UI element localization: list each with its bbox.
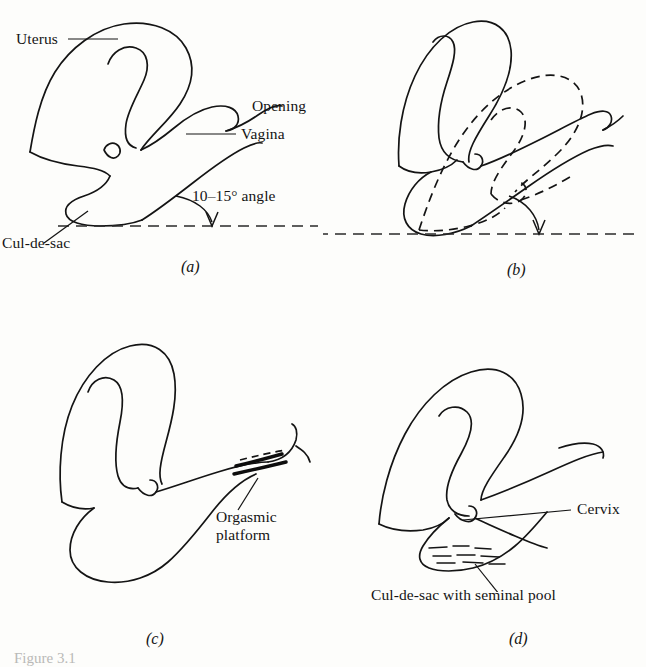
uterine-cavity-ballooned bbox=[88, 378, 138, 489]
uterus-outline-resolution bbox=[379, 369, 523, 524]
uterine-cavity-unstimulated bbox=[491, 108, 525, 194]
uterus-lower-left bbox=[30, 152, 110, 176]
vagina-unstimulated bbox=[521, 174, 575, 200]
label-cul-de-sac: Cul-de-sac bbox=[2, 234, 70, 252]
uterine-cavity-resolution bbox=[439, 407, 471, 516]
uterus-lower-left-resolution bbox=[379, 518, 449, 531]
uterus-lower-left-elevated bbox=[399, 160, 457, 173]
uterus-outline-ballooned bbox=[60, 344, 175, 502]
vagina-upper-resolution bbox=[481, 452, 603, 500]
label-uterus: Uterus bbox=[16, 30, 58, 48]
panel-c-drawing bbox=[0, 296, 323, 592]
uterine-cavity-line bbox=[108, 47, 147, 148]
label-cervix: Cervix bbox=[577, 500, 620, 518]
uterine-cavity-elevated bbox=[433, 36, 463, 162]
cervix-notch-ballooned bbox=[138, 480, 158, 495]
panel-b: (b) bbox=[323, 0, 646, 296]
cervix-leader bbox=[463, 510, 571, 520]
panel-d-drawing bbox=[323, 296, 646, 592]
seminal-pool-mark-3 bbox=[475, 548, 491, 549]
panel-d: Cervix Cul-de-sac with seminal pool (d) bbox=[323, 296, 646, 592]
label-cul-de-sac-seminal-pool: Cul-de-sac with seminal pool bbox=[371, 586, 556, 604]
uterus-lower-left-ballooned bbox=[62, 502, 94, 509]
vaginal-opening-elevated bbox=[603, 116, 623, 130]
seminal-pool-mark-8 bbox=[463, 562, 483, 563]
panel-a: Uterus Opening Vagina 10–15° angle Cul-d… bbox=[0, 0, 323, 296]
vagina-lower-elevated bbox=[471, 145, 613, 226]
vagina-upper-elevated bbox=[481, 111, 612, 166]
cervix-notch bbox=[104, 143, 120, 158]
vaginal-opening-c bbox=[296, 446, 310, 462]
panel-c: Orgasmic platform (c) bbox=[0, 296, 323, 592]
posterior-vaginal-wall bbox=[475, 518, 547, 548]
panel-letter-a: (a) bbox=[181, 258, 200, 276]
panel-b-drawing bbox=[323, 0, 646, 296]
panel-letter-b: (b) bbox=[507, 261, 526, 279]
label-vagina: Vagina bbox=[241, 125, 285, 143]
seminal-pool-mark-6 bbox=[481, 556, 499, 557]
seminal-pool-mark-1 bbox=[429, 547, 447, 548]
panel-letter-c: (c) bbox=[146, 630, 164, 648]
uterus-outline-elevated bbox=[399, 21, 512, 166]
figure-caption: Figure 3.1 bbox=[14, 650, 76, 667]
uterus-outline-unstimulated bbox=[419, 75, 583, 230]
label-opening: Opening bbox=[252, 97, 306, 115]
vaginal-canal-upper bbox=[141, 106, 238, 150]
vaginal-distal-resolution bbox=[559, 443, 604, 458]
panel-letter-d: (d) bbox=[509, 630, 528, 648]
label-angle: 10–15° angle bbox=[192, 187, 276, 205]
cervix-notch-elevated bbox=[463, 154, 483, 169]
label-orgasmic-platform: Orgasmic platform bbox=[216, 508, 277, 545]
